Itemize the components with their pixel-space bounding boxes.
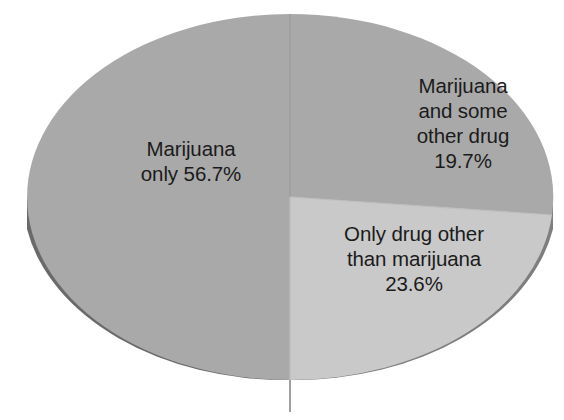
pie-chart: Marijuana only 56.7% Marijuana and some … <box>0 0 564 420</box>
pie-chart-graphic <box>0 0 564 420</box>
slice-label-marijuana-only: Marijuana only 56.7% <box>96 136 286 186</box>
slice-label-only-drug-other-than-marijuana: Only drug other than marijuana 23.6% <box>302 221 526 296</box>
slice-top-marijuana-only <box>27 14 290 380</box>
slice-label-marijuana-and-some-other-drug: Marijuana and some other drug 19.7% <box>368 73 558 173</box>
